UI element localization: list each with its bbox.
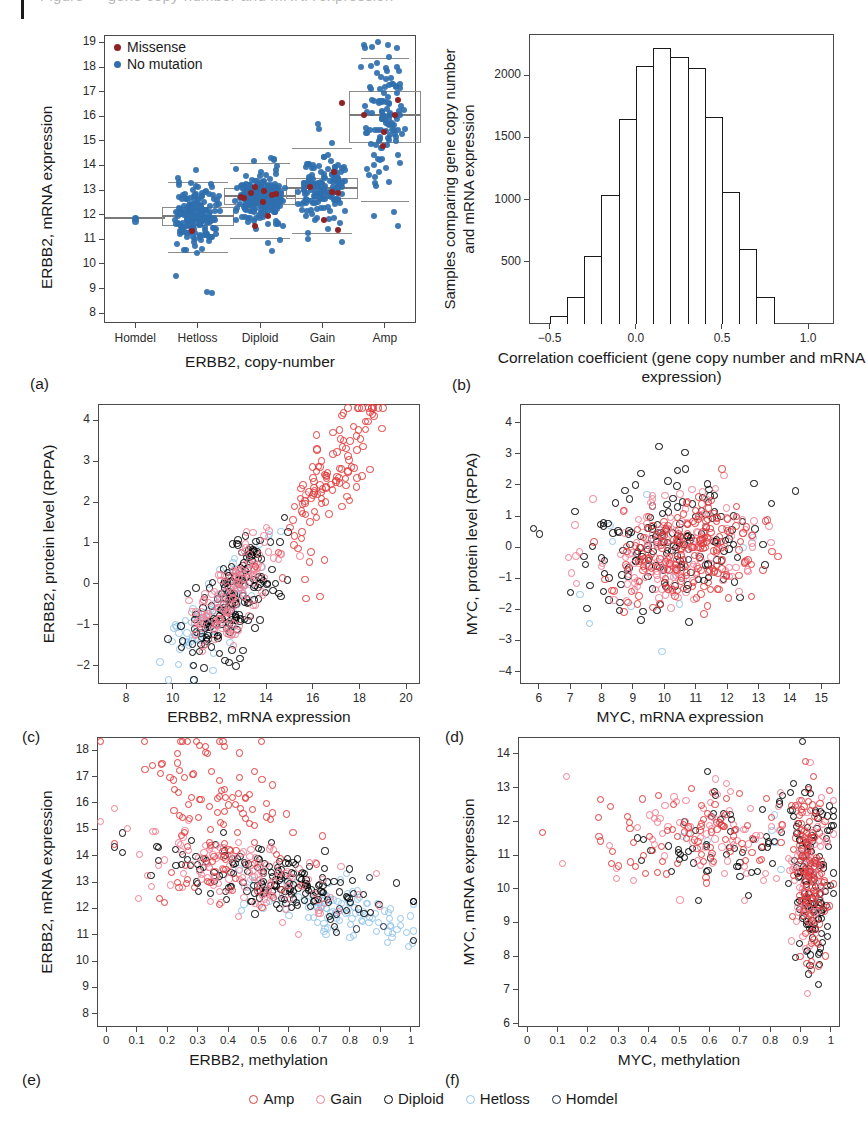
legend-label: Gain bbox=[330, 1090, 362, 1107]
point-no-mutation bbox=[321, 154, 327, 160]
scatter-point-amp bbox=[313, 860, 320, 867]
scatter-point-amp bbox=[822, 952, 829, 959]
y-tickmark bbox=[515, 578, 520, 579]
y-tickmark bbox=[92, 961, 97, 962]
panel-d-y-tick: 0 bbox=[484, 539, 512, 553]
scatter-point-gain bbox=[656, 815, 663, 822]
boxplot-whisker-cap-lower bbox=[292, 233, 352, 234]
scatter-point-diploid bbox=[410, 898, 417, 905]
scatter-point-amp bbox=[705, 504, 713, 512]
scatter-point-gain bbox=[750, 517, 758, 525]
scatter-point-amp bbox=[319, 832, 326, 839]
scatter-point-hetloss bbox=[658, 648, 666, 656]
panel-d-y-tick: −3 bbox=[484, 632, 512, 646]
scatter-point-homdel bbox=[380, 923, 387, 930]
scatter-point-diploid bbox=[294, 855, 301, 862]
scatter-point-amp bbox=[730, 832, 737, 839]
point-no-mutation bbox=[272, 181, 278, 187]
scatter-point-diploid bbox=[190, 676, 198, 684]
point-no-mutation bbox=[366, 172, 372, 178]
panel-e-y-tick: 18 bbox=[61, 742, 89, 756]
panel-a-legend-item: Missense bbox=[114, 39, 202, 56]
scatter-point-amp bbox=[219, 848, 226, 855]
legend-marker-dot bbox=[114, 61, 121, 68]
panel-a-y-tick: 9 bbox=[68, 281, 96, 295]
x-tickmark bbox=[830, 1027, 831, 1032]
scatter-point-gain bbox=[682, 797, 689, 804]
scatter-point-amp bbox=[344, 468, 352, 476]
y-tickmark bbox=[99, 67, 104, 68]
panel-a-y-tick: 19 bbox=[68, 34, 96, 48]
x-tickmark bbox=[632, 684, 633, 689]
scatter-point-amp bbox=[366, 466, 374, 474]
y-tickmark bbox=[515, 671, 520, 672]
panel-letter-a: (a) bbox=[30, 375, 49, 393]
point-no-mutation bbox=[375, 39, 381, 45]
scatter-point-amp bbox=[301, 576, 309, 584]
point-missense bbox=[329, 189, 335, 195]
figure-legend: AmpGainDiploidHetlossHomdel bbox=[0, 1090, 867, 1107]
legend-item-label: No mutation bbox=[127, 56, 202, 72]
point-no-mutation bbox=[342, 208, 348, 214]
scatter-point-amp bbox=[670, 801, 677, 808]
scatter-point-amp bbox=[340, 409, 348, 417]
y-tickmark bbox=[99, 116, 104, 117]
point-no-mutation bbox=[265, 221, 271, 227]
x-tickmark bbox=[406, 684, 407, 689]
panel-f-ylabel-wrap: MYC, mRNA expression bbox=[460, 737, 478, 1027]
scatter-point-amp bbox=[190, 770, 197, 777]
point-no-mutation bbox=[179, 196, 185, 202]
point-no-mutation bbox=[372, 127, 378, 133]
scatter-point-gain bbox=[194, 619, 202, 627]
scatter-point-amp bbox=[810, 887, 817, 894]
scatter-point-amp bbox=[774, 553, 782, 561]
scatter-point-gain bbox=[649, 502, 657, 510]
panel-e-xlabel: ERBB2, methylation bbox=[67, 1051, 450, 1069]
point-no-mutation bbox=[208, 181, 214, 187]
scatter-point-hetloss bbox=[387, 923, 394, 930]
scatter-point-amp bbox=[206, 803, 213, 810]
scatter-point-amp bbox=[642, 870, 649, 877]
y-tickmark bbox=[513, 989, 518, 990]
panel-d-y-tick: −1 bbox=[484, 570, 512, 584]
panel-e-y-tick: 14 bbox=[61, 848, 89, 862]
scatter-point-gain bbox=[777, 789, 784, 796]
scatter-point-gain bbox=[327, 894, 334, 901]
scatter-point-amp bbox=[342, 445, 350, 453]
scatter-point-gain bbox=[97, 818, 104, 825]
point-no-mutation bbox=[177, 211, 183, 217]
scatter-point-amp bbox=[174, 879, 181, 886]
scatter-point-amp bbox=[704, 602, 712, 610]
x-tickmark bbox=[126, 684, 127, 689]
x-tickmark bbox=[527, 1027, 528, 1032]
scatter-point-gain bbox=[296, 552, 304, 560]
scatter-point-gain bbox=[258, 588, 266, 596]
scatter-point-gain bbox=[240, 894, 247, 901]
panel-f-y-tick: 10 bbox=[482, 881, 510, 895]
scatter-point-gain bbox=[744, 568, 752, 576]
scatter-point-amp bbox=[815, 962, 822, 969]
scatter-point-amp bbox=[337, 435, 345, 443]
scatter-point-diploid bbox=[632, 481, 640, 489]
scatter-point-amp bbox=[811, 863, 818, 870]
scatter-point-amp bbox=[301, 500, 309, 508]
scatter-point-hetloss bbox=[165, 676, 173, 684]
panel-e-x-tick: 1 bbox=[385, 1034, 437, 1046]
scatter-point-diploid bbox=[790, 780, 797, 787]
panel-c-y-tick: 4 bbox=[62, 412, 90, 426]
y-tickmark bbox=[93, 542, 98, 543]
x-tickmark bbox=[266, 684, 267, 689]
x-tickmark bbox=[538, 684, 539, 689]
scatter-point-gain bbox=[198, 871, 205, 878]
scatter-point-gain bbox=[559, 860, 566, 867]
scatter-point-diploid bbox=[637, 616, 645, 624]
point-no-mutation bbox=[396, 68, 402, 74]
scatter-point-hetloss bbox=[676, 600, 684, 608]
scatter-point-gain bbox=[321, 900, 328, 907]
scatter-point-gain bbox=[319, 876, 326, 883]
scatter-point-amp bbox=[313, 446, 321, 454]
point-no-mutation bbox=[325, 226, 331, 232]
x-tickmark bbox=[695, 684, 696, 689]
scatter-point-amp bbox=[768, 814, 775, 821]
panel-d-y-tick: 3 bbox=[484, 446, 512, 460]
